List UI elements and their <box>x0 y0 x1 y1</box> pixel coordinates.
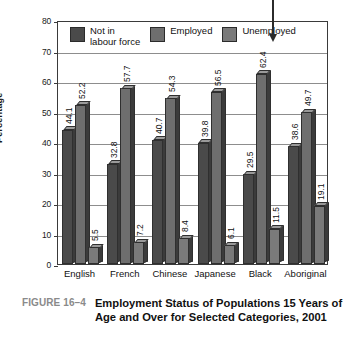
plot-area: 44.152.25.532.857.77.240.754.38.439.856.… <box>57 21 328 265</box>
bar-value-label: 29.5 <box>245 151 255 168</box>
bar-value-label: 56.5 <box>213 69 223 86</box>
bar-group: 38.649.719.1 <box>284 22 329 264</box>
bar-value-label: 6.1 <box>226 228 236 240</box>
bar: 38.6 <box>288 146 299 264</box>
bar: 54.3 <box>165 98 176 264</box>
bar: 49.7 <box>301 112 312 264</box>
callout-arrow-head <box>269 34 277 42</box>
bar-front-face <box>314 206 325 264</box>
legend-swatch <box>70 27 85 42</box>
bar: 56.5 <box>211 92 222 264</box>
bar-top-face <box>134 239 148 243</box>
bar-value-label: 57.7 <box>122 65 132 82</box>
bar: 39.8 <box>198 143 209 264</box>
bar-front-face <box>243 174 254 264</box>
bar: 6.1 <box>224 245 235 264</box>
callout-arrow-icon <box>272 0 274 44</box>
y-axis-tick-label: 80 <box>29 16 51 26</box>
bar-value-label: 52.2 <box>77 82 87 99</box>
y-axis-tick-label: 20 <box>29 199 51 209</box>
figure-caption: FIGURE 16–4 Employment Status of Populat… <box>0 296 352 324</box>
bar-front-face <box>301 112 312 264</box>
bar-front-face <box>178 238 189 264</box>
bar-front-face <box>62 130 73 265</box>
bar-value-label: 39.8 <box>200 120 210 137</box>
legend-item-not-in-labour-force: Not in labour force <box>70 26 140 47</box>
bar: 19.1 <box>314 206 325 264</box>
bar: 29.5 <box>243 174 254 264</box>
bar-front-face <box>256 74 267 264</box>
x-axis-label-aboriginal: Aboriginal <box>284 268 326 279</box>
bar-front-face <box>107 164 118 264</box>
bar: 44.1 <box>62 130 73 265</box>
y-axis-tick <box>54 266 58 267</box>
bar-side-face <box>222 89 226 263</box>
legend-swatch <box>150 27 165 42</box>
bar-group: 29.562.411.5 <box>239 22 284 264</box>
bar-front-face <box>133 242 144 264</box>
bar: 7.2 <box>133 242 144 264</box>
x-axis-label-english: English <box>64 268 95 279</box>
bar-side-face <box>86 102 90 263</box>
bar-front-face <box>165 98 176 264</box>
x-axis-label-japanese: Japanese <box>194 268 235 279</box>
bar-group: 32.857.77.2 <box>103 22 148 264</box>
bar-top-face <box>121 85 135 89</box>
bar-front-face <box>75 105 86 264</box>
bar-value-label: 11.5 <box>271 207 281 223</box>
bar-front-face <box>211 92 222 264</box>
bar-value-label: 19.1 <box>316 183 326 200</box>
chart-legend: Not in labour forceEmployedUnemployed <box>70 26 320 54</box>
bar-front-face <box>224 245 235 264</box>
figure-chart: Percentage 01020304050607080 44.152.25.5… <box>0 0 352 292</box>
bar: 5.5 <box>88 247 99 264</box>
bar-value-label: 32.8 <box>109 141 119 158</box>
x-axis-label-french: French <box>110 268 140 279</box>
bar-value-label: 8.4 <box>180 221 190 233</box>
bar: 40.7 <box>152 140 163 264</box>
bar-value-label: 44.1 <box>64 107 74 124</box>
bar-group: 40.754.38.4 <box>148 22 193 264</box>
y-axis-tick-label: 70 <box>29 47 51 57</box>
bar-group: 39.856.56.1 <box>194 22 239 264</box>
figure-number: FIGURE 16–4 <box>22 296 86 324</box>
bar-value-label: 40.7 <box>154 117 164 134</box>
legend-label: Not in labour force <box>90 26 140 47</box>
bar-value-label: 49.7 <box>303 90 313 107</box>
callout-arrow-stem <box>272 0 274 36</box>
y-axis-tick-label: 50 <box>29 108 51 118</box>
bar-side-face <box>280 226 284 263</box>
bar-side-face <box>325 203 329 263</box>
y-axis-tick-label: 60 <box>29 77 51 87</box>
legend-item-employed: Employed <box>150 26 212 42</box>
legend-label: Employed <box>170 26 212 37</box>
bar-front-face <box>152 140 163 264</box>
bar: 8.4 <box>178 238 189 264</box>
bar: 62.4 <box>256 74 267 264</box>
bar-front-face <box>88 247 99 264</box>
bar-value-label: 7.2 <box>135 224 145 236</box>
x-axis-label-chinese: Chinese <box>152 268 187 279</box>
legend-item-unemployed: Unemployed <box>222 26 295 42</box>
bar: 57.7 <box>120 88 131 264</box>
bar: 32.8 <box>107 164 118 264</box>
bar-value-label: 38.6 <box>290 124 300 141</box>
y-axis-title: Percentage <box>0 92 4 143</box>
bar-front-face <box>269 229 280 264</box>
bar: 52.2 <box>75 105 86 264</box>
bar-value-label: 54.3 <box>167 76 177 93</box>
y-axis-tick-label: 30 <box>29 169 51 179</box>
x-axis-label-black: Black <box>249 268 272 279</box>
bar-group: 44.152.25.5 <box>58 22 103 264</box>
bar-front-face <box>198 143 209 264</box>
y-axis-tick-label: 10 <box>29 230 51 240</box>
bar-top-face <box>89 244 103 248</box>
figure-title: Employment Status of Populations 15 Year… <box>95 296 352 324</box>
bar-front-face <box>288 146 299 264</box>
y-axis-tick-label: 0 <box>29 260 51 270</box>
bar-side-face <box>189 235 193 262</box>
bar-series-container: 44.152.25.532.857.77.240.754.38.439.856.… <box>58 22 327 264</box>
legend-swatch <box>222 27 237 42</box>
bar-front-face <box>120 88 131 264</box>
bar: 11.5 <box>269 229 280 264</box>
